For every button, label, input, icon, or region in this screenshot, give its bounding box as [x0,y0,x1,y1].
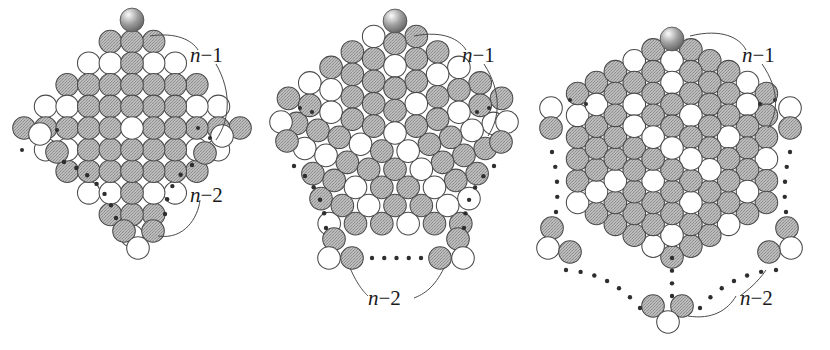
detached-circle [657,311,680,334]
ellipsis-dot [114,216,118,220]
square-circle [142,95,165,118]
ellipsis-dot [55,128,59,132]
ellipsis-dot [163,212,167,216]
ellipsis-dot [578,270,582,274]
ellipsis-dot [628,295,632,299]
ellipsis-dot [322,211,326,215]
detached-circle [780,237,803,260]
ellipsis-dot [555,195,559,199]
ellipsis-dot [196,126,200,130]
label-n-minus-2-pentagon: n−2 [368,286,401,310]
square-circle [99,117,122,140]
ellipsis-dot [473,185,477,189]
pentagon-circle [298,94,321,117]
square-circle [164,160,187,183]
square-circle [78,95,101,118]
ellipsis-dot [370,256,374,260]
square-circle [121,160,144,183]
pentagon-circle [384,77,407,100]
pentagon-circle [469,94,492,117]
ellipsis-dot [670,268,674,272]
ellipsis-dot [170,184,174,188]
hexagon-circle [661,137,684,160]
label-n-minus-1-pentagon: n−1 [462,43,495,67]
pentagon-circle [362,48,385,71]
ellipsis-dot [553,165,557,169]
pentagon-circle [277,87,300,110]
ellipsis-dot [785,165,789,169]
detached-circle [540,117,563,140]
label-n-minus-1-hexagon: n−1 [742,43,775,67]
ellipsis-dot [592,273,596,277]
ellipsis-dot [698,306,702,310]
detached-circle [452,247,475,270]
square-circle [56,95,79,118]
pentagon-circle [384,122,407,145]
ellipsis-dot [670,256,674,260]
pentagon-circle [405,48,428,71]
pentagon-circle [362,25,385,48]
ellipsis-dot [745,273,749,277]
label-n-minus-2-hexagon: n−2 [740,286,773,310]
pentagon-circle [405,70,428,93]
detached-circle [194,142,217,165]
pentagon-circle [405,25,428,48]
ellipsis-dot [720,286,724,290]
square-circle [78,160,101,183]
ellipsis-dot [584,102,588,106]
pentagon-circle [426,108,449,131]
pentagon-circle [384,99,407,122]
figure-canvas: n−1 n−2 n−1 n−2 n−1 n−2 Sphere packing s… [0,0,830,350]
ellipsis-dot [475,110,479,114]
ellipsis-dot [310,110,314,114]
ellipsis-dot [190,163,194,167]
ellipsis-dot [178,173,182,177]
label-n-minus-1-square: n−1 [190,43,223,67]
ellipsis-dot [605,279,609,283]
detached-circle [46,141,69,164]
square-circle [99,160,122,183]
detached-circle [779,97,802,120]
detached-circle [540,97,563,120]
label-n-minus-2-square: n−2 [190,183,223,207]
pentagon-circle [405,92,428,115]
detached-circle [490,131,513,154]
square-circle [142,117,165,140]
ellipsis-dot [555,180,559,184]
detached-circle [758,241,781,264]
detached-circle [779,117,802,140]
ellipsis-dot [394,256,398,260]
ellipsis-dot [102,192,106,196]
packing-diagram-svg: n−1 n−2 n−1 n−2 n−1 n−2 [0,0,830,350]
square-circle [78,117,101,140]
ellipsis-dot [670,281,674,285]
pentagon-circle [362,70,385,93]
leader-n-minus-2-pentagon-right [414,268,444,298]
square-circle [34,95,57,118]
ellipsis-dot [568,98,572,102]
ellipsis-dot [758,102,762,106]
ellipsis-dot [638,306,642,310]
ellipsis-dot [784,210,788,214]
pentagon-circle [320,56,343,79]
leader-n-minus-2-hexagon-left [688,296,736,317]
apex-sphere [120,8,144,32]
detached-circle [211,125,234,148]
ellipsis-dot [708,295,712,299]
ellipsis-dot [487,106,491,110]
ellipsis-dot [292,164,296,168]
ellipsis-dot [382,256,386,260]
square-circle [142,30,165,53]
square-circle [164,52,187,75]
ellipsis-dot [759,270,763,274]
square-circle [56,117,79,140]
ellipsis-dot [419,256,423,260]
square-circle [121,117,144,140]
ellipsis-dot [324,226,328,230]
square-circle [121,138,144,161]
ellipsis-dot [550,150,554,154]
detached-circle [29,123,52,146]
ellipsis-dot [311,185,315,189]
ellipsis-dot [783,195,787,199]
square-circle [99,138,122,161]
